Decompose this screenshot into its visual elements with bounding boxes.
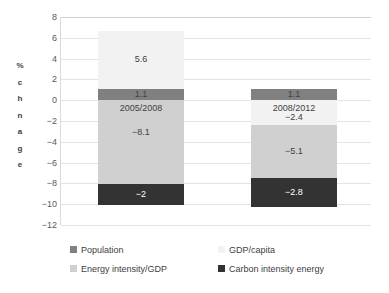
bar-segment[interactable]: 1.1 xyxy=(98,89,184,100)
bar-group[interactable]: 1.15.6−8.1−22005/2008 xyxy=(98,17,184,225)
legend-label: GDP/capita xyxy=(229,245,275,255)
bar-segment[interactable]: 5.6 xyxy=(98,31,184,89)
legend-label: Population xyxy=(81,245,124,255)
y-axis-tick-label: −4 xyxy=(30,137,57,147)
y-axis-title-letter: % xyxy=(13,58,27,75)
legend-label: Energy intensity/GDP xyxy=(81,264,167,274)
bar-period-label: 2008/2012 xyxy=(251,103,337,113)
y-axis-tick-label: −10 xyxy=(30,199,57,209)
plot-area: 1.15.6−8.1−22005/20081.1−2.4−5.1−2.82008… xyxy=(60,17,371,225)
bar-value-label: −5.1 xyxy=(285,147,303,157)
y-axis-title-letter: g xyxy=(13,141,27,158)
y-axis-tick-label: −6 xyxy=(30,158,57,168)
y-axis-tick-labels: 86420−2−4−6−8−10−12 xyxy=(30,0,57,293)
y-axis-title-letter: a xyxy=(13,124,27,141)
legend-item[interactable]: Energy intensity/GDP xyxy=(70,264,218,274)
legend-color-swatch xyxy=(70,265,77,272)
bar-segment[interactable]: −5.1 xyxy=(251,125,337,178)
bar-value-label: −8.1 xyxy=(132,128,150,138)
legend-item[interactable]: Carbon intensity energy xyxy=(218,264,368,274)
y-axis-tick-label: 2 xyxy=(30,74,57,84)
legend-item[interactable]: Population xyxy=(70,245,218,255)
stacked-bar-chart: %chnage 86420−2−4−6−8−10−12 1.15.6−8.1−2… xyxy=(0,0,389,293)
bar-value-label: −2.4 xyxy=(285,113,303,123)
y-axis-title-letter: c xyxy=(13,75,27,92)
bar-value-label: 1.1 xyxy=(288,90,301,100)
y-axis-tick-label: 8 xyxy=(30,12,57,22)
bar-value-label: 5.6 xyxy=(135,55,148,65)
y-axis-tick-label: 6 xyxy=(30,33,57,43)
bar-segment[interactable]: −2.8 xyxy=(251,178,337,207)
legend-label: Carbon intensity energy xyxy=(229,264,324,274)
y-axis-title: %chnage xyxy=(13,58,27,174)
y-axis-tick-label: 0 xyxy=(30,95,57,105)
y-axis-tick-label: −12 xyxy=(30,220,57,230)
bar-period-label: 2005/2008 xyxy=(98,103,184,113)
y-axis-tick-label: −2 xyxy=(30,116,57,126)
bar-value-label: −2.8 xyxy=(285,188,303,198)
y-axis-title-letter: n xyxy=(13,108,27,125)
legend-item[interactable]: GDP/capita xyxy=(218,245,368,255)
y-axis-tick-label: 4 xyxy=(30,54,57,64)
y-axis-title-letter: e xyxy=(13,157,27,174)
legend-color-swatch xyxy=(218,265,225,272)
legend-color-swatch xyxy=(70,246,77,253)
y-axis-tick-label: −8 xyxy=(30,178,57,188)
bar-value-label: 1.1 xyxy=(135,90,148,100)
legend-color-swatch xyxy=(218,246,225,253)
gridline xyxy=(61,225,371,226)
bar-segment[interactable]: −2 xyxy=(98,184,184,205)
bar-segment[interactable]: 1.1 xyxy=(251,89,337,100)
bar-group[interactable]: 1.1−2.4−5.1−2.82008/2012 xyxy=(251,17,337,225)
bar-value-label: −2 xyxy=(136,190,146,200)
y-axis-title-letter: h xyxy=(13,91,27,108)
chart-legend: PopulationGDP/capitaEnergy intensity/GDP… xyxy=(70,240,370,278)
